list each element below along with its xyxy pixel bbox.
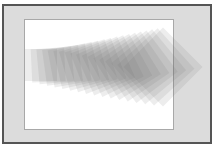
square-sequence (25, 27, 203, 106)
rotating-squares-illustration (0, 0, 214, 149)
